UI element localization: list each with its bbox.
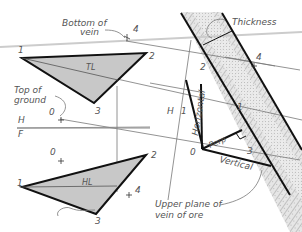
label-h1-1: 1: [181, 106, 187, 116]
label-upper-plane-2: vein of ore: [155, 210, 204, 220]
top-point-4: 4: [133, 24, 139, 34]
label-hl: HL: [82, 178, 92, 187]
aux-point-1: 1: [237, 102, 243, 112]
front-point-3: 3: [95, 216, 101, 226]
top-point-1: 1: [18, 45, 24, 55]
top-point-2: 2: [149, 51, 155, 61]
aux-point-0: 0: [190, 147, 196, 157]
label-upper-plane-1: Upper plane of: [155, 199, 223, 209]
label-h: H: [18, 115, 25, 125]
front-point-1: 1: [17, 178, 23, 188]
aux-point-4: 4: [256, 52, 262, 62]
label-perp: Perp: [207, 135, 227, 150]
label-top-of-ground-1: Top of: [14, 85, 43, 95]
top-point-3: 3: [95, 106, 101, 116]
label-thickness: Thickness: [232, 17, 277, 27]
aux-point-2: 2: [200, 62, 206, 72]
top-point-0: 0: [49, 107, 55, 117]
front-point-0: 0: [50, 147, 56, 157]
label-top-of-ground-2: ground: [14, 95, 46, 105]
vein-thickness-diagram: Bottom of vein Thickness Top of ground T…: [0, 0, 302, 232]
label-tl: TL: [86, 63, 95, 72]
front-point-2: 2: [151, 150, 157, 160]
label-bottom-of-vein-2: vein: [80, 27, 99, 37]
label-f: F: [18, 129, 24, 139]
fold-line-top: [0, 32, 302, 47]
front-point-4: 4: [135, 185, 141, 195]
label-h1-h: H: [167, 106, 174, 116]
aux-point-3: 3: [247, 146, 253, 156]
